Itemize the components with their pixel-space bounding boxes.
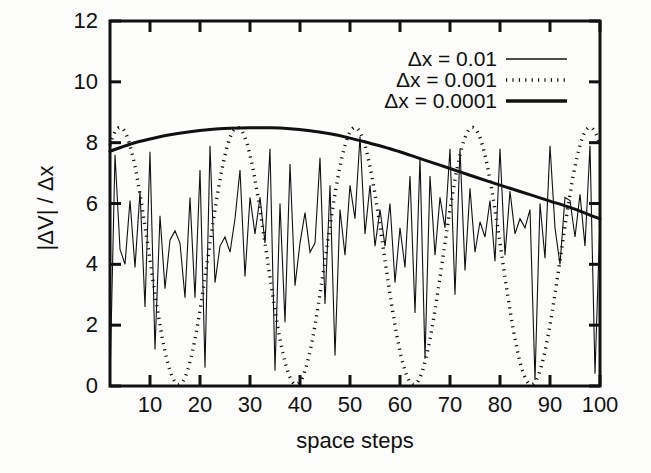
y-tick-label: 8 — [40, 130, 98, 156]
x-tick-label: 30 — [238, 392, 262, 418]
y-axis-title: |ΔV| / Δx — [33, 166, 59, 251]
series-dx-0.001 — [110, 127, 600, 384]
x-tick-label: 80 — [488, 392, 512, 418]
x-tick-label: 90 — [538, 392, 562, 418]
y-tick-label: 12 — [40, 8, 98, 34]
legend-line-samples — [506, 59, 567, 101]
chart-figure: 121086420 102030405060708090100 |ΔV| / Δ… — [0, 0, 651, 473]
x-tick-label: 60 — [388, 392, 412, 418]
x-tick-label: 50 — [338, 392, 362, 418]
x-tick-label: 10 — [138, 392, 162, 418]
x-tick-label: 40 — [288, 392, 312, 418]
y-tick-label: 2 — [40, 312, 98, 338]
series-dx-0.0001 — [110, 128, 600, 219]
y-tick-label: 4 — [40, 251, 98, 277]
series-dx-0.01 — [110, 137, 600, 380]
x-axis-title: space steps — [296, 428, 413, 454]
x-tick-label: 20 — [188, 392, 212, 418]
x-tick-label: 100 — [582, 392, 619, 418]
y-tick-label: 10 — [40, 69, 98, 95]
y-tick-label: 0 — [40, 373, 98, 399]
legend-label-2: Δx = 0.0001 — [250, 89, 497, 113]
x-tick-label: 70 — [438, 392, 462, 418]
